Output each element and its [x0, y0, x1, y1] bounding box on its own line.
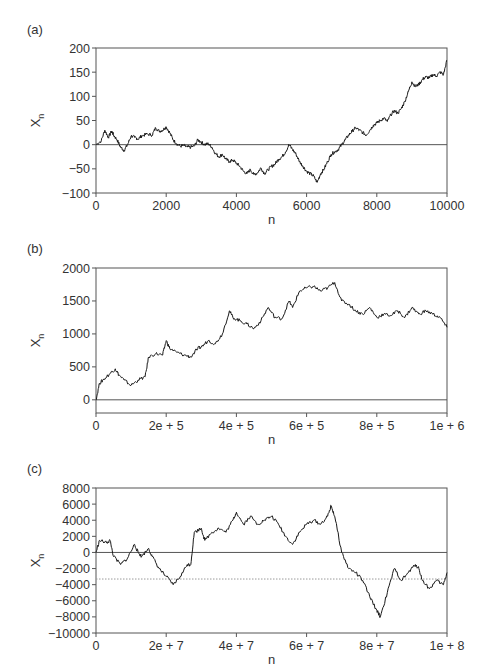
y-tick-label: 500: [69, 360, 90, 374]
x-axis-title: n: [268, 652, 275, 667]
y-tick-label: 4000: [62, 514, 90, 528]
x-tick-label: 4000: [222, 199, 250, 213]
svg-text:Xn: Xn: [28, 114, 46, 128]
svg-text:Xn: Xn: [28, 554, 46, 568]
random-walk-line: [96, 282, 447, 399]
y-tick-label: −100: [62, 187, 90, 201]
panel-label: (b): [27, 241, 43, 256]
x-tick-label: 1e + 6: [429, 419, 464, 433]
y-tick-label: 1000: [62, 327, 90, 341]
x-tick-label: 1e + 8: [429, 639, 464, 653]
y-tick-label: −10000: [48, 627, 90, 641]
svg-text:Xn: Xn: [28, 334, 46, 348]
x-tick-label: 6000: [293, 199, 321, 213]
x-tick-label: 0: [93, 639, 100, 653]
plot-frame: [96, 488, 447, 633]
y-tick-label: 2000: [62, 262, 90, 276]
y-tick-label: 50: [76, 114, 90, 128]
y-tick-label: −2000: [55, 562, 90, 576]
x-tick-label: 8e + 7: [359, 639, 394, 653]
x-tick-label: 2e + 7: [149, 639, 184, 653]
y-tick-label: 100: [69, 90, 90, 104]
x-tick-label: 0: [93, 419, 100, 433]
x-tick-label: 2e + 5: [149, 419, 184, 433]
plot-frame: [96, 268, 447, 413]
random-walk-line: [96, 60, 447, 182]
y-tick-label: 150: [69, 66, 90, 80]
y-tick-label: −4000: [55, 578, 90, 592]
x-tick-label: 4e + 5: [219, 419, 254, 433]
y-tick-label: 0: [83, 138, 90, 152]
x-tick-label: 8e + 5: [359, 419, 394, 433]
x-tick-label: 6e + 5: [289, 419, 324, 433]
x-axis-title: n: [268, 432, 275, 447]
x-tick-label: 4e + 7: [219, 639, 254, 653]
y-axis-title: Xn: [28, 334, 46, 348]
plot-frame: [96, 48, 447, 193]
panel-label: (c): [27, 461, 42, 476]
y-tick-label: −50: [69, 162, 90, 176]
y-tick-label: 200: [69, 42, 90, 56]
y-axis-title: Xn: [28, 114, 46, 128]
chart-a: 200150100500−50−100020004000600080001000…: [0, 0, 492, 222]
panel-a: (a) 200150100500−50−10002000400060008000…: [0, 0, 492, 222]
y-tick-label: 8000: [62, 482, 90, 496]
y-tick-label: 0: [83, 546, 90, 560]
x-axis-title: n: [268, 212, 275, 227]
y-tick-label: −8000: [55, 610, 90, 624]
x-tick-label: 8000: [363, 199, 391, 213]
y-tick-label: 1500: [62, 294, 90, 308]
y-tick-label: 0: [83, 393, 90, 407]
x-tick-label: 6e + 7: [289, 639, 324, 653]
x-tick-label: 2000: [152, 199, 180, 213]
x-tick-label: 10000: [430, 199, 465, 213]
x-tick-label: 0: [93, 199, 100, 213]
y-tick-label: 2000: [62, 530, 90, 544]
y-tick-label: −6000: [55, 594, 90, 608]
random-walk-line: [96, 505, 447, 617]
y-tick-label: 6000: [62, 498, 90, 512]
y-axis-title: Xn: [28, 554, 46, 568]
